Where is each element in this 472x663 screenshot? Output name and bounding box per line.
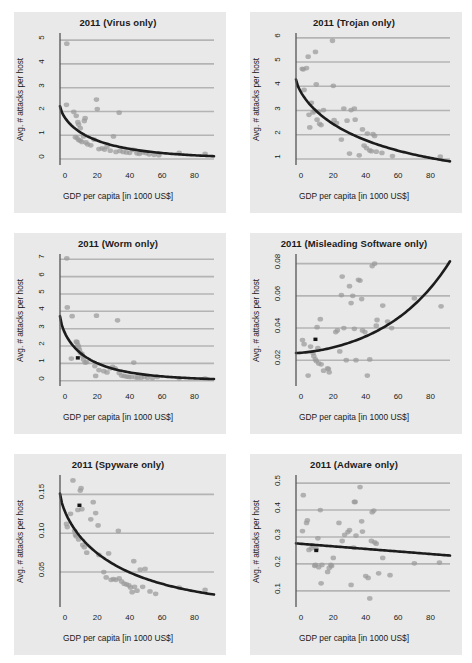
plot-area [60, 475, 214, 607]
y-tick-text: 0.15 [37, 477, 46, 507]
y-tick-label: 0.10 [26, 526, 56, 535]
gridlines [296, 38, 450, 159]
data-point [369, 149, 375, 154]
y-tick-label: 7 [26, 252, 56, 261]
y-tick-label: 1 [26, 128, 56, 137]
data-point [300, 338, 306, 343]
y-tick-text: 0.05 [37, 555, 46, 585]
panel-2: 2011 (Trojan only)Avg. # attacks per hos… [236, 0, 472, 221]
data-point [319, 563, 325, 568]
y-tick-text: 0.02 [273, 343, 282, 373]
y-tick-label: 0.04 [262, 321, 292, 330]
y-tick-label: 0.1 [262, 584, 292, 593]
data-point [131, 559, 137, 564]
data-points [64, 41, 208, 157]
x-tick-label: 0 [289, 613, 313, 622]
x-tick-label: 80 [419, 171, 443, 180]
y-tick-label: 0.05 [26, 565, 56, 574]
data-point [153, 591, 159, 596]
data-point [374, 318, 380, 323]
data-point [305, 54, 311, 59]
data-points [64, 478, 208, 596]
highlight-marker [77, 504, 81, 507]
y-tick-label: 0.06 [262, 289, 292, 298]
data-points [300, 485, 443, 601]
data-point [318, 317, 324, 322]
data-point [335, 328, 341, 333]
y-axis-label: Avg. # attacks per host [250, 33, 264, 165]
data-points [299, 38, 443, 159]
data-point [321, 108, 327, 113]
data-point [82, 116, 88, 121]
data-point [64, 256, 70, 261]
data-point [348, 583, 354, 588]
data-point [107, 148, 113, 153]
plot-svg [296, 33, 450, 165]
data-point [111, 134, 117, 139]
data-points [64, 256, 208, 381]
data-point [380, 303, 386, 308]
data-point [301, 342, 307, 347]
data-point [329, 564, 335, 569]
panel-grid: 2011 (Virus only)Avg. # attacks per host… [0, 0, 472, 663]
data-point [376, 571, 382, 576]
x-tick-label: 40 [354, 392, 378, 401]
data-point [343, 358, 349, 363]
y-axis-label-text: Avg. # attacks per host [17, 499, 26, 582]
data-point [318, 581, 324, 586]
data-point [116, 110, 122, 115]
data-point [360, 529, 366, 534]
panel-content: 2011 (Virus only)Avg. # attacks per host… [0, 0, 236, 221]
panel-1: 2011 (Virus only)Avg. # attacks per host… [0, 0, 236, 221]
data-point [347, 528, 353, 533]
data-point [116, 529, 122, 534]
y-axis-label-text: Avg. # attacks per host [17, 278, 26, 361]
data-point [336, 521, 342, 526]
data-point [84, 550, 90, 555]
x-tick-label: 20 [85, 392, 109, 401]
y-tick-label: 3 [26, 81, 56, 90]
data-point [357, 485, 363, 490]
data-point [300, 529, 306, 534]
x-tick-label: 0 [53, 171, 77, 180]
y-tick-text: 5 [37, 23, 46, 53]
y-tick-text: 0.1 [273, 573, 282, 603]
data-point [347, 284, 353, 289]
data-point [326, 370, 332, 375]
data-point [372, 134, 378, 139]
data-point [69, 356, 75, 361]
data-point [307, 125, 313, 130]
panel-title: 2011 (Spyware only) [0, 459, 236, 470]
data-point [103, 575, 109, 580]
data-point [94, 313, 100, 318]
y-tick-text: 0.4 [273, 493, 282, 523]
data-point [352, 500, 358, 505]
data-point [82, 545, 88, 550]
panel-title: 2011 (Adware only) [236, 459, 472, 470]
data-point [379, 151, 385, 156]
data-point [73, 113, 79, 118]
data-point [367, 357, 373, 362]
data-point [65, 525, 71, 530]
data-point [337, 349, 343, 354]
x-tick-label: 20 [321, 171, 345, 180]
data-point [88, 143, 94, 148]
data-point [352, 106, 358, 111]
x-axis-label: GDP per capita [in 1000 US$] [0, 191, 236, 201]
data-point [142, 567, 148, 572]
data-point [412, 561, 418, 566]
data-point [93, 374, 99, 379]
y-tick-text: 0.06 [273, 278, 282, 308]
x-tick-label: 0 [289, 392, 313, 401]
data-point [352, 326, 358, 331]
y-tick-label: 5 [262, 55, 292, 64]
y-tick-label: 0.5 [262, 476, 292, 485]
trend-line [60, 316, 214, 379]
x-tick-label: 60 [150, 171, 174, 180]
data-point [341, 326, 347, 331]
y-tick-label: 3 [262, 104, 292, 113]
x-tick-label: 60 [386, 613, 410, 622]
y-axis-label-text: Avg. # attacks per host [253, 278, 262, 361]
x-tick-label: 0 [53, 613, 77, 622]
highlight-marker [313, 338, 317, 341]
